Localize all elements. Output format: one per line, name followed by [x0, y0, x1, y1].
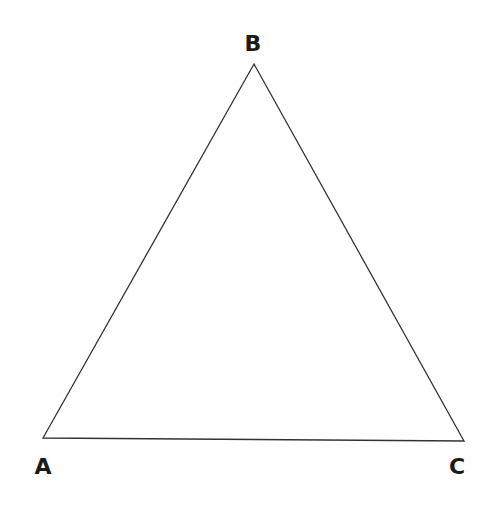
- vertex-label-a: A: [34, 454, 51, 479]
- vertex-label-b: B: [245, 31, 262, 56]
- triangle-abc: [43, 64, 464, 441]
- triangle-diagram: B A C: [0, 0, 494, 513]
- vertex-label-c: C: [449, 454, 465, 479]
